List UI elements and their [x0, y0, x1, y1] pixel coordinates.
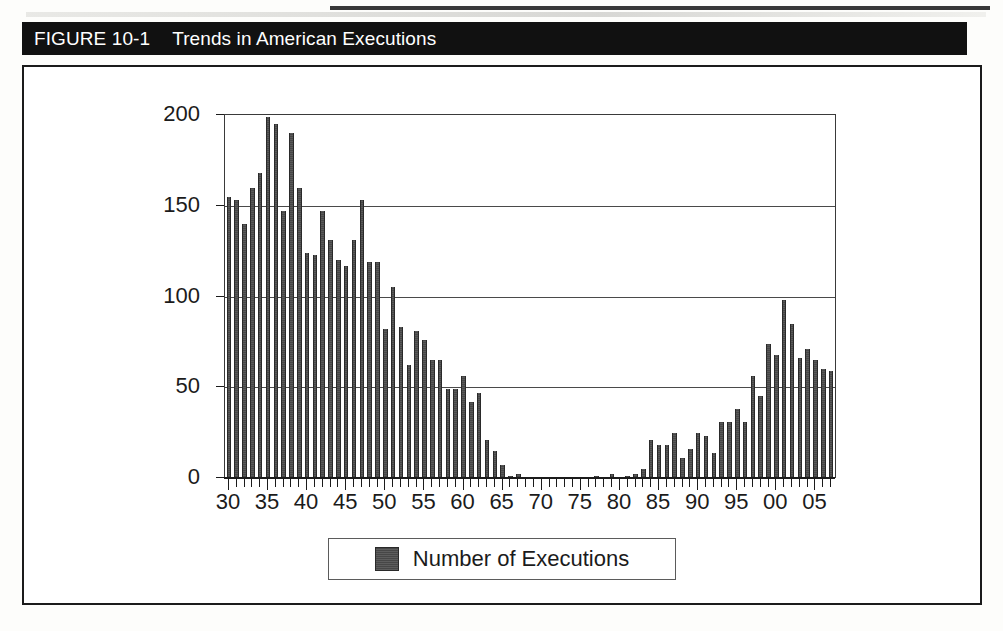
- y-axis-tick-label: 200: [152, 103, 212, 125]
- legend-label: Number of Executions: [413, 548, 629, 570]
- bar: [688, 449, 693, 478]
- bar: [829, 371, 834, 478]
- x-axis-tick-label: 70: [528, 491, 552, 513]
- x-axis-tick: [290, 477, 291, 487]
- bar: [704, 436, 709, 478]
- x-axis-tick: [830, 477, 831, 487]
- x-axis-tick: [259, 477, 260, 487]
- x-axis-tick: [752, 477, 753, 487]
- bar: [414, 331, 419, 478]
- x-axis-tick: [298, 477, 299, 487]
- bar: [274, 124, 279, 478]
- x-axis-tick: [494, 477, 495, 487]
- bar: [712, 453, 717, 478]
- x-axis-tick: [470, 477, 471, 487]
- bar: [227, 197, 232, 478]
- x-axis-tick: [236, 477, 237, 487]
- bar: [242, 224, 247, 478]
- x-axis-tick: [807, 477, 808, 487]
- x-axis-tick: [744, 477, 745, 487]
- bar: [438, 360, 443, 478]
- x-axis-tick-label: 35: [255, 491, 279, 513]
- x-axis-tick: [533, 477, 534, 487]
- bar: [391, 287, 396, 478]
- figure-frame: 050100150200 303540455055606570758085909…: [22, 65, 982, 605]
- bar: [469, 402, 474, 478]
- bar: [727, 422, 732, 478]
- x-axis-tick: [275, 477, 276, 487]
- x-axis-tick: [642, 477, 643, 487]
- x-axis-tick: [705, 477, 706, 487]
- y-axis-tick-label: 100: [152, 285, 212, 307]
- figure-title: Trends in American Executions: [172, 28, 436, 50]
- x-axis-tick: [330, 477, 331, 487]
- x-axis-tick: [283, 477, 284, 487]
- x-axis-tick: [627, 477, 628, 487]
- x-axis-tick: [768, 477, 769, 487]
- x-axis-tick: [244, 477, 245, 487]
- x-axis-tick: [322, 477, 323, 487]
- x-axis-tick: [408, 477, 409, 487]
- y-axis-tick-label: 0: [152, 466, 212, 488]
- bar: [774, 355, 779, 478]
- x-axis-tick: [635, 477, 636, 487]
- x-axis-tick: [361, 477, 362, 487]
- x-axis-tick: [682, 477, 683, 487]
- x-axis-tick: [455, 477, 456, 487]
- x-axis-tick: [783, 477, 784, 487]
- bar: [344, 266, 349, 478]
- bar: [360, 200, 365, 478]
- x-axis-tick: [713, 477, 714, 487]
- bar: [790, 324, 795, 478]
- figure-header-bar: FIGURE 10-1 Trends in American Execution…: [22, 22, 967, 55]
- x-axis-tick: [525, 477, 526, 487]
- bar: [649, 440, 654, 478]
- bar: [766, 344, 771, 478]
- bar: [798, 358, 803, 478]
- x-axis-tick: [447, 477, 448, 487]
- x-axis-tick: [611, 477, 612, 487]
- bar: [758, 396, 763, 478]
- bar: [313, 255, 318, 478]
- bar: [719, 422, 724, 478]
- x-axis-tick: [431, 477, 432, 487]
- x-axis-tick: [392, 477, 393, 487]
- x-axis-tick: [416, 477, 417, 487]
- x-axis-tick: [486, 477, 487, 487]
- x-axis-tick-label: 65: [489, 491, 513, 513]
- bar: [250, 188, 255, 478]
- x-axis-tick: [760, 477, 761, 487]
- bar: [453, 389, 458, 478]
- x-axis-tick: [791, 477, 792, 487]
- x-axis-tick: [353, 477, 354, 487]
- bar: [805, 349, 810, 478]
- bar: [266, 117, 271, 478]
- x-axis-tick: [251, 477, 252, 487]
- bar: [743, 422, 748, 478]
- x-axis-tick-label: 75: [568, 491, 592, 513]
- x-axis-tick: [314, 477, 315, 487]
- bar: [477, 393, 482, 478]
- bar: [352, 240, 357, 478]
- bar: [485, 440, 490, 478]
- x-axis-tick-label: 60: [450, 491, 474, 513]
- bar: [297, 188, 302, 478]
- x-axis-tick-label: 85: [646, 491, 670, 513]
- scan-streak: [26, 12, 986, 17]
- bar: [657, 445, 662, 478]
- bar: [320, 211, 325, 478]
- x-axis-tick: [799, 477, 800, 487]
- bar: [399, 327, 404, 478]
- x-axis-tick-label: 90: [685, 491, 709, 513]
- x-axis-tick: [369, 477, 370, 487]
- executions-bar-chart: 050100150200 303540455055606570758085909…: [24, 67, 984, 607]
- x-axis-tick: [595, 477, 596, 487]
- x-axis-tick: [822, 477, 823, 487]
- bar: [672, 433, 677, 478]
- bar: [258, 173, 263, 478]
- y-axis-labels: 050100150200: [152, 114, 212, 477]
- x-axis-tick: [377, 477, 378, 487]
- bar: [234, 200, 239, 478]
- x-axis-tick: [674, 477, 675, 487]
- x-axis-tick: [439, 477, 440, 487]
